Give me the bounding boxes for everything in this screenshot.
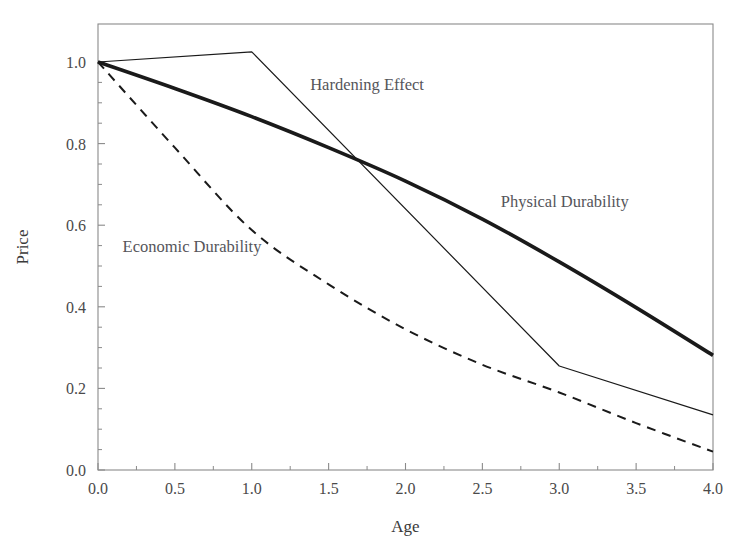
x-tick-label: 1.0 (242, 480, 262, 497)
series-label-0: Physical Durability (501, 192, 630, 211)
y-axis-title: Price (13, 230, 32, 265)
x-tick-label: 2.0 (396, 480, 416, 497)
series-line-2 (98, 62, 713, 452)
chart-figure: 0.00.51.01.52.02.53.03.54.00.00.20.40.60… (0, 0, 751, 555)
series-label-2: Economic Durability (123, 237, 263, 256)
x-tick-label: 2.5 (472, 480, 492, 497)
y-tick-label: 0.6 (66, 217, 86, 234)
y-tick-label: 0.4 (66, 299, 86, 316)
y-tick-label: 0.2 (66, 380, 86, 397)
axis-tick-labels: 0.00.51.01.52.02.53.03.54.00.00.20.40.60… (66, 54, 723, 497)
series-line-1 (98, 52, 713, 415)
y-tick-label: 0.0 (66, 462, 86, 479)
series-label-1: Hardening Effect (310, 75, 424, 94)
y-tick-label: 1.0 (66, 54, 86, 71)
x-tick-label: 0.5 (165, 480, 185, 497)
chart-canvas: 0.00.51.01.52.02.53.03.54.00.00.20.40.60… (0, 0, 751, 555)
y-tick-label: 0.8 (66, 136, 86, 153)
x-axis-title: Age (391, 517, 419, 536)
x-tick-label: 1.5 (319, 480, 339, 497)
x-tick-label: 4.0 (703, 480, 723, 497)
axis-ticks (98, 62, 713, 470)
series-annotations: Physical DurabilityHardening EffectEcono… (123, 75, 630, 256)
x-tick-label: 0.0 (88, 480, 108, 497)
x-tick-label: 3.5 (626, 480, 646, 497)
x-tick-label: 3.0 (549, 480, 569, 497)
